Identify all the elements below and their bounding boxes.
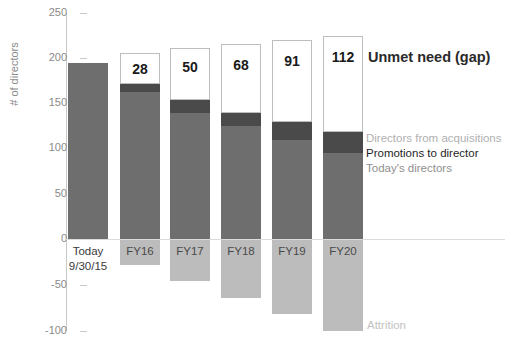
- stacked-bar-chart: # of directors 250 200 150 100 50 0 -50 …: [0, 0, 511, 345]
- category-label-today-line2: 9/30/15: [68, 260, 108, 273]
- category-label-fy19: FY19: [272, 245, 312, 258]
- segment-todays-directors-fy18[interactable]: [221, 126, 261, 239]
- segment-todays-directors-fy16[interactable]: [120, 92, 160, 239]
- segment-todays-directors-fy17[interactable]: [170, 113, 210, 239]
- bar-group-fy16[interactable]: 28 FY16: [120, 0, 160, 345]
- bar-group-fy19[interactable]: 91 FY19: [272, 0, 312, 345]
- category-label-fy17: FY17: [170, 245, 210, 258]
- bar-group-fy20[interactable]: 112 FY20: [323, 0, 363, 345]
- gap-value-fy16: 28: [120, 62, 160, 76]
- legend: Directors from acquisitions Promotions t…: [366, 131, 501, 176]
- y-tick-label-100: 100: [35, 142, 67, 153]
- annotation-unmet-need: Unmet need (gap): [368, 50, 490, 64]
- category-label-today-line1: Today: [68, 245, 108, 258]
- segment-unmet-gap-fy18[interactable]: [221, 44, 261, 113]
- gap-value-fy19: 91: [272, 54, 312, 68]
- y-tick-label-neg100: -100: [35, 325, 67, 336]
- legend-item-acquisitions: Directors from acquisitions: [366, 131, 501, 146]
- gap-value-fy18: 68: [221, 58, 261, 72]
- segment-todays-directors-fy19[interactable]: [272, 140, 312, 239]
- legend-item-promotions: Promotions to director: [366, 146, 501, 161]
- y-tick-label-200: 200: [35, 52, 67, 63]
- category-label-fy16: FY16: [120, 245, 160, 258]
- y-tick-label-150: 150: [35, 97, 67, 108]
- gap-value-fy17: 50: [170, 60, 210, 74]
- segment-promotions-fy17[interactable]: [170, 100, 210, 113]
- annotation-attrition: Attrition: [367, 318, 406, 332]
- y-tick-label-250: 250: [35, 7, 67, 18]
- y-axis-title: # of directors: [8, 19, 20, 129]
- category-label-fy20: FY20: [323, 245, 363, 258]
- category-label-fy18: FY18: [221, 245, 261, 258]
- bar-group-today[interactable]: Today 9/30/15: [68, 0, 108, 345]
- y-tick-label-50: 50: [35, 188, 67, 199]
- y-tick-label-neg50: -50: [35, 279, 67, 290]
- segment-promotions-fy20[interactable]: [323, 132, 363, 153]
- bar-group-fy18[interactable]: 68 FY18: [221, 0, 261, 345]
- y-tick-label-0: 0: [35, 233, 67, 244]
- segment-promotions-fy16[interactable]: [120, 84, 160, 92]
- legend-item-todays-directors: Today's directors: [366, 161, 501, 176]
- segment-todays-directors-fy20[interactable]: [323, 153, 363, 239]
- segment-promotions-fy18[interactable]: [221, 113, 261, 126]
- segment-promotions-fy19[interactable]: [272, 122, 312, 140]
- gap-value-fy20: 112: [323, 50, 363, 64]
- bar-group-fy17[interactable]: 50 FY17: [170, 0, 210, 345]
- segment-todays-directors[interactable]: [68, 63, 108, 239]
